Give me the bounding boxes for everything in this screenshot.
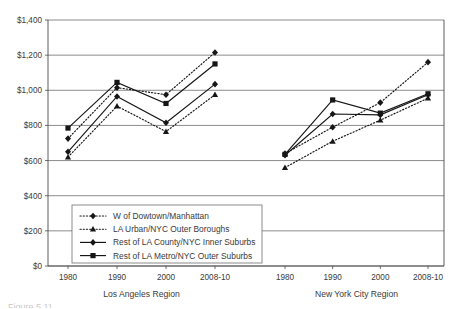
series-marker (330, 124, 336, 131)
x-axis-tick-label: 2000 (157, 273, 176, 282)
y-axis-tick-label: $1,200 (17, 51, 42, 60)
series-line (68, 84, 215, 152)
y-axis-tick-label: $800 (24, 121, 43, 130)
series-marker (163, 91, 169, 98)
series-marker (114, 103, 120, 109)
series-marker (282, 152, 287, 157)
series-marker (377, 99, 383, 106)
line-chart: $1,400$1,200$1,000$800$600$400$200$01980… (0, 0, 457, 309)
series-marker (114, 80, 119, 85)
panel-label: New York City Region (315, 289, 398, 299)
series-marker (282, 165, 288, 171)
x-axis-tick-label: 2000 (371, 273, 390, 282)
x-axis-tick-label: 2008-10 (200, 273, 230, 282)
figure-container: $1,400$1,200$1,000$800$600$400$200$01980… (0, 0, 457, 309)
series-marker (65, 125, 70, 130)
series-marker (378, 111, 383, 116)
series-line (68, 95, 215, 157)
series-line (285, 98, 428, 167)
y-axis-tick-label: $0 (33, 262, 43, 271)
series-marker (163, 101, 168, 106)
legend-label: W of Dowtown/Manhattan (113, 211, 209, 221)
legend-label: Rest of LA Metro/NYC Outer Suburbs (113, 251, 252, 261)
series-marker (212, 92, 218, 98)
x-axis-tick-label: 2008-10 (413, 273, 443, 282)
legend-marker (90, 253, 95, 258)
y-axis-tick-label: $600 (24, 157, 43, 166)
chart-legend: W of Dowtown/ManhattanLA Urban/NYC Outer… (72, 205, 262, 263)
panel-new-york-city: 1980199020002008-10New York City Region (276, 59, 444, 299)
x-axis-tick-label: 1990 (324, 273, 343, 282)
legend-label: LA Urban/NYC Outer Boroughs (113, 224, 229, 234)
y-axis-tick-label: $400 (24, 192, 43, 201)
x-axis-tick-label: 1980 (276, 273, 295, 282)
series-marker (425, 91, 430, 96)
series-marker (212, 61, 217, 66)
series-marker (330, 97, 335, 102)
series-line (285, 94, 428, 155)
figure-caption-text: Figure 5.11 (8, 302, 53, 308)
figure-caption: Figure 5.11 (8, 296, 128, 308)
series-line (285, 95, 428, 156)
y-axis-tick-label: $200 (24, 227, 43, 236)
x-axis-tick-label: 1980 (59, 273, 78, 282)
y-axis-tick-label: $1,000 (17, 86, 42, 95)
x-axis-tick-label: 1990 (108, 273, 127, 282)
series-marker (330, 138, 336, 144)
y-axis-tick-label: $1,400 (17, 16, 42, 25)
legend-label: Rest of LA County/NYC Inner Suburbs (113, 237, 255, 247)
series-line (68, 64, 215, 128)
